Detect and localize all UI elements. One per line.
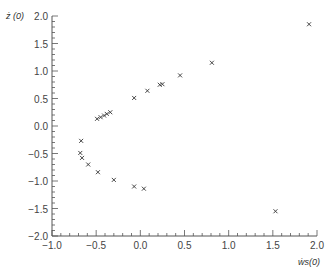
- y-tick-label: 2.0: [34, 11, 48, 22]
- data-point-x-marker: [307, 22, 311, 26]
- x-axis-label: ẇs(0): [298, 257, 320, 267]
- y-axis-label: ż (0): [5, 11, 24, 21]
- data-point-x-marker: [86, 163, 90, 167]
- data-point-x-marker: [178, 73, 182, 77]
- data-point-x-marker: [145, 89, 149, 93]
- data-point-x-marker: [96, 170, 100, 174]
- x-tick-label: −1.0: [42, 240, 62, 251]
- data-point-x-marker: [112, 178, 116, 182]
- data-point-x-marker: [158, 83, 162, 87]
- x-tick-label: 1.0: [222, 240, 236, 251]
- x-tick-label: 1.5: [266, 240, 280, 251]
- y-tick-label: 1.5: [34, 39, 48, 50]
- data-point-x-marker: [142, 187, 146, 191]
- data-point-x-marker: [132, 96, 136, 100]
- y-tick-label: 1.0: [34, 66, 48, 77]
- x-tick-label: 2.0: [310, 240, 324, 251]
- x-tick-label: −0.5: [86, 240, 106, 251]
- y-tick-label: −0.5: [28, 149, 48, 160]
- scatter-chart: 2.01.51.00.50.0−0.5−1.0−1.5−2.0−1.0−0.50…: [0, 0, 329, 272]
- y-tick-label: −1.0: [28, 176, 48, 187]
- data-points: [78, 22, 311, 213]
- axes: 2.01.51.00.50.0−0.5−1.0−1.5−2.0−1.0−0.50…: [28, 11, 324, 251]
- data-point-x-marker: [132, 185, 136, 189]
- data-point-x-marker: [78, 151, 82, 155]
- x-tick-label: 0.5: [178, 240, 192, 251]
- y-tick-label: −1.5: [28, 204, 48, 215]
- data-point-x-marker: [273, 209, 277, 213]
- data-point-x-marker: [79, 139, 83, 143]
- x-tick-label: 0.0: [133, 240, 147, 251]
- y-tick-label: 0.0: [34, 121, 48, 132]
- data-point-x-marker: [80, 156, 84, 160]
- y-tick-label: 0.5: [34, 94, 48, 105]
- data-point-x-marker: [210, 61, 214, 65]
